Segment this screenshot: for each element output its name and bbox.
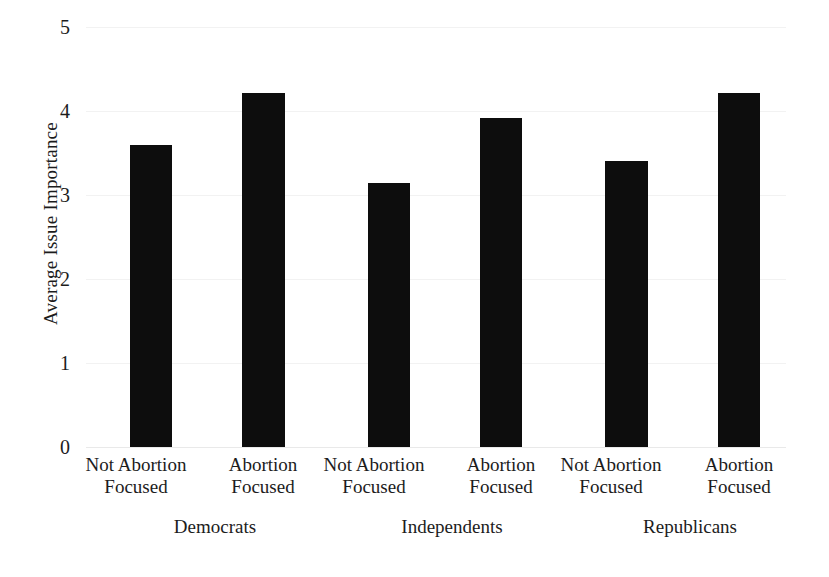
x-group-label-republicans: Republicans [610, 515, 770, 539]
x-category-label-2-line1: Not Abortion [309, 454, 439, 476]
x-category-label-2-line2: Focused [309, 476, 439, 498]
x-category-label-2: Not Abortion Focused [309, 454, 439, 498]
bar-republicans-abortion-focused [718, 93, 760, 447]
y-tick-label-4: 4 [44, 101, 70, 121]
gridline-3 [86, 195, 786, 196]
bar-democrats-not-abortion-focused [130, 145, 172, 447]
bar-independents-not-abortion-focused [368, 183, 410, 447]
gridline-2 [86, 279, 786, 280]
plot-area [86, 27, 786, 447]
x-category-label-5-line1: Abortion [674, 454, 804, 476]
y-tick-label-2: 2 [44, 269, 70, 289]
x-category-label-4-line1: Not Abortion [546, 454, 676, 476]
x-group-label-independents: Independents [372, 515, 532, 539]
y-tick-label-0: 0 [44, 437, 70, 457]
bar-democrats-abortion-focused [242, 93, 285, 447]
x-category-label-0-line2: Focused [71, 476, 201, 498]
y-axis-title: Average Issue Importance [34, 0, 68, 447]
y-tick-label-3: 3 [44, 185, 70, 205]
bar-republicans-not-abortion-focused [605, 161, 648, 447]
bar-independents-abortion-focused [480, 118, 522, 447]
gridline-5 [86, 27, 786, 28]
x-category-label-4-line2: Focused [546, 476, 676, 498]
gridline-1 [86, 363, 786, 364]
x-category-label-0-line1: Not Abortion [71, 454, 201, 476]
x-axis-baseline [86, 447, 786, 448]
x-group-label-democrats: Democrats [135, 515, 295, 539]
bar-chart: Average Issue Importance 5 4 3 2 1 0 Not… [0, 0, 829, 577]
x-category-label-0: Not Abortion Focused [71, 454, 201, 498]
gridline-4 [86, 111, 786, 112]
x-category-label-5-line2: Focused [674, 476, 804, 498]
x-category-label-5: Abortion Focused [674, 454, 804, 498]
x-category-label-4: Not Abortion Focused [546, 454, 676, 498]
y-tick-label-5: 5 [44, 17, 70, 37]
y-tick-label-1: 1 [44, 353, 70, 373]
